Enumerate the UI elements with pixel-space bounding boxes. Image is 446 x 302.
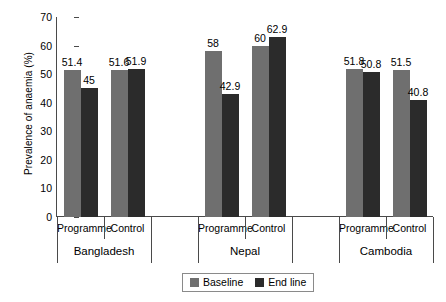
bar-endline bbox=[222, 94, 239, 217]
x-axis-group-labels: BangladeshNepalCambodia bbox=[57, 239, 434, 263]
bar-value-label: 62.9 bbox=[257, 24, 297, 35]
bar-group: 6062.9 bbox=[245, 17, 292, 217]
x-axis-separator bbox=[104, 217, 105, 239]
x-axis-subgroup-label: Programme bbox=[198, 217, 245, 239]
bar-value-label: 58 bbox=[193, 38, 233, 49]
x-axis-subgroup-label: Control bbox=[104, 217, 151, 239]
plot-area: 51.44551.651.95842.96062.951.850.851.540… bbox=[57, 17, 433, 217]
x-axis-separator bbox=[339, 217, 340, 239]
y-axis-tick-label: 50 bbox=[26, 69, 52, 79]
x-axis-separator bbox=[151, 217, 152, 239]
x-axis-group-label: Nepal bbox=[198, 239, 292, 263]
bar-endline bbox=[363, 72, 380, 217]
x-axis-separator bbox=[198, 217, 199, 239]
x-axis-group-separator bbox=[433, 239, 434, 263]
bar-value-label: 45 bbox=[69, 75, 109, 86]
x-axis-group-separator bbox=[339, 239, 340, 263]
x-axis-subgroup-label: Control bbox=[245, 217, 292, 239]
bar-value-label: 40.8 bbox=[398, 87, 438, 98]
legend-item-baseline: Baseline bbox=[190, 276, 243, 289]
bar-group: 5842.9 bbox=[198, 17, 245, 217]
x-axis-group-separator bbox=[292, 239, 293, 263]
bar-endline bbox=[128, 69, 145, 217]
bar-group: 51.651.9 bbox=[104, 17, 151, 217]
y-axis-tick-group: 010203040506070 bbox=[22, 0, 52, 302]
legend-swatch-endline-icon bbox=[255, 278, 264, 287]
legend-label-baseline: Baseline bbox=[203, 276, 243, 289]
x-axis-group-separator bbox=[57, 239, 58, 263]
y-axis-tick-label: 60 bbox=[26, 41, 52, 51]
y-axis-tick-label: 30 bbox=[26, 126, 52, 136]
bar-value-label: 51.4 bbox=[52, 57, 92, 68]
x-axis-group-label: Cambodia bbox=[339, 239, 433, 263]
x-axis-group-label: Bangladesh bbox=[57, 239, 151, 263]
bar-group: 51.850.8 bbox=[339, 17, 386, 217]
legend-item-endline: End line bbox=[255, 276, 306, 289]
x-axis-separator bbox=[433, 217, 434, 239]
x-axis-subgroup-label: Control bbox=[386, 217, 433, 239]
bar-group: 51.445 bbox=[57, 17, 104, 217]
x-axis-separator bbox=[292, 217, 293, 239]
bar-endline bbox=[81, 88, 98, 217]
y-axis-tick-label: 0 bbox=[26, 212, 52, 222]
legend-label-endline: End line bbox=[268, 276, 306, 289]
x-axis-group-separator bbox=[198, 239, 199, 263]
x-axis-separator bbox=[245, 217, 246, 239]
bar-group: 51.540.8 bbox=[386, 17, 433, 217]
bar-baseline bbox=[205, 51, 222, 217]
bar-value-label: 51.5 bbox=[381, 57, 421, 68]
x-axis-subgroup-label: Programme bbox=[339, 217, 386, 239]
bar-baseline bbox=[111, 70, 128, 217]
bar-value-label: 42.9 bbox=[210, 81, 250, 92]
bar-endline bbox=[410, 100, 427, 217]
bar-baseline bbox=[64, 70, 81, 217]
y-axis-tick-label: 70 bbox=[26, 12, 52, 22]
x-axis-separator bbox=[57, 217, 58, 239]
x-axis-subgroup-label: Programme bbox=[57, 217, 104, 239]
bar-endline bbox=[269, 37, 286, 217]
legend-swatch-baseline-icon bbox=[190, 278, 199, 287]
y-axis-tick-label: 10 bbox=[26, 183, 52, 193]
anaemia-prevalence-bar-chart: Prevalence of anaemia (%) 01020304050607… bbox=[0, 0, 446, 302]
bar-baseline bbox=[346, 69, 363, 217]
y-axis-tick-label: 20 bbox=[26, 155, 52, 165]
bar-value-label: 51.9 bbox=[116, 56, 156, 67]
y-axis-tick-label: 40 bbox=[26, 98, 52, 108]
x-axis-subgroup-labels: ProgrammeControlProgrammeControlProgramm… bbox=[57, 217, 434, 239]
chart-legend: Baseline End line bbox=[182, 273, 314, 292]
bar-baseline bbox=[252, 46, 269, 217]
x-axis-separator bbox=[386, 217, 387, 239]
x-axis-group-separator bbox=[151, 239, 152, 263]
